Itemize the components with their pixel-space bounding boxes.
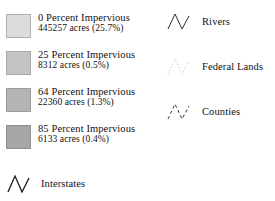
legend-item-rivers: Rivers <box>166 10 230 32</box>
legend-sub-impervious-0: 445257 acres (25.7%) <box>38 24 130 34</box>
legend-item-impervious-85: 85 Percent Impervious 6133 acres (0.4%) <box>6 124 135 149</box>
legend-item-impervious-25: 25 Percent Impervious 8312 acres (0.5%) <box>6 50 135 75</box>
zigzag-line-icon-rivers <box>166 10 196 32</box>
zigzag-line-icon-interstates <box>6 172 36 194</box>
legend-item-impervious-0: 0 Percent Impervious 445257 acres (25.7%… <box>6 13 130 38</box>
legend-text-impervious-0: 0 Percent Impervious 445257 acres (25.7%… <box>38 13 130 33</box>
map-legend: 0 Percent Impervious 445257 acres (25.7%… <box>0 0 275 201</box>
legend-text-impervious-64: 64 Percent Impervious 22360 acres (1.3%) <box>38 87 135 107</box>
legend-item-counties: Counties <box>166 100 240 122</box>
zigzag-line-icon-federal-lands <box>166 55 196 77</box>
legend-swatch-impervious-64 <box>6 88 31 112</box>
legend-item-impervious-64: 64 Percent Impervious 22360 acres (1.3%) <box>6 87 135 112</box>
legend-sub-impervious-64: 22360 acres (1.3%) <box>38 98 135 108</box>
legend-label-rivers: Rivers <box>202 16 230 27</box>
legend-item-interstates: Interstates <box>6 172 85 194</box>
legend-item-federal-lands: Federal Lands <box>166 55 263 77</box>
legend-label-federal-lands: Federal Lands <box>202 61 263 72</box>
legend-text-impervious-85: 85 Percent Impervious 6133 acres (0.4%) <box>38 124 135 144</box>
legend-swatch-impervious-25 <box>6 51 31 75</box>
zigzag-line-icon-counties <box>166 100 196 122</box>
legend-label-counties: Counties <box>202 106 240 117</box>
legend-swatch-impervious-0 <box>6 14 31 38</box>
legend-label-interstates: Interstates <box>41 178 85 189</box>
legend-sub-impervious-85: 6133 acres (0.4%) <box>38 135 135 145</box>
legend-swatch-impervious-85 <box>6 125 31 149</box>
legend-sub-impervious-25: 8312 acres (0.5%) <box>38 61 135 71</box>
legend-text-impervious-25: 25 Percent Impervious 8312 acres (0.5%) <box>38 50 135 70</box>
